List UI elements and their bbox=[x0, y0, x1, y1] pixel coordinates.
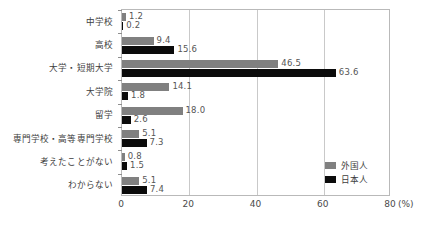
x-axis-tick-label: 40 bbox=[250, 199, 261, 209]
category-label: 専門学校・高等専門学校 bbox=[13, 126, 113, 149]
bar-row: 46.563.6 bbox=[122, 57, 389, 80]
bar bbox=[122, 46, 174, 54]
legend-label: 日本人 bbox=[341, 173, 368, 185]
x-axis-tick-label: 80 bbox=[384, 199, 395, 209]
category-label: 考えたことがない bbox=[40, 149, 113, 172]
bar bbox=[122, 107, 183, 115]
bar bbox=[122, 69, 336, 77]
bar bbox=[122, 186, 147, 194]
category-label: 高校 bbox=[95, 32, 113, 55]
bar-row: 1.20.2 bbox=[122, 10, 389, 33]
bar-value-label: 14.1 bbox=[172, 81, 192, 92]
bar-value-label: 7.4 bbox=[150, 184, 164, 195]
y-axis-tick bbox=[118, 174, 122, 175]
bar-value-label: 9.4 bbox=[157, 35, 171, 46]
bar bbox=[122, 139, 147, 147]
bar-row: 5.17.3 bbox=[122, 127, 389, 150]
y-axis-tick bbox=[118, 33, 122, 34]
bar-value-label: 7.3 bbox=[150, 137, 164, 148]
category-label: わからない bbox=[68, 173, 114, 196]
y-axis-tick bbox=[118, 127, 122, 128]
bar bbox=[122, 37, 154, 45]
category-label: 中学校 bbox=[86, 9, 113, 32]
chart-legend: 外国人日本人 bbox=[325, 159, 368, 187]
x-axis-tick-label: 20 bbox=[183, 199, 194, 209]
category-label: 留学 bbox=[95, 103, 113, 126]
category-label: 大学・短期大学 bbox=[49, 56, 113, 79]
bar bbox=[122, 60, 278, 68]
bar-value-label: 1.8 bbox=[131, 90, 145, 101]
y-axis-tick bbox=[118, 10, 122, 11]
y-axis-tick bbox=[118, 150, 122, 151]
bar-value-label: 0.2 bbox=[126, 20, 140, 31]
y-axis-tick bbox=[118, 104, 122, 105]
legend-swatch-icon bbox=[325, 176, 336, 183]
bar bbox=[122, 83, 169, 91]
bar-value-label: 63.6 bbox=[339, 67, 359, 78]
bar-row: 14.11.8 bbox=[122, 80, 389, 103]
x-axis-labels: 020406080 bbox=[121, 197, 390, 215]
bar bbox=[122, 22, 123, 30]
bar-value-label: 2.6 bbox=[134, 114, 148, 125]
bar-value-label: 1.5 bbox=[130, 160, 144, 171]
bar-value-label: 18.0 bbox=[186, 105, 206, 116]
legend-swatch-icon bbox=[325, 162, 336, 169]
bar-value-label: 15.6 bbox=[177, 44, 197, 55]
bar bbox=[122, 177, 139, 185]
bar bbox=[122, 130, 139, 138]
bar-row: 9.415.6 bbox=[122, 33, 389, 56]
x-axis-tick-label: 60 bbox=[317, 199, 328, 209]
y-axis-tick bbox=[118, 80, 122, 81]
legend-item: 外国人 bbox=[325, 159, 368, 171]
x-axis-tick-label: 0 bbox=[118, 199, 124, 209]
bar bbox=[122, 162, 127, 170]
bar bbox=[122, 92, 128, 100]
x-axis-unit-label: (%) bbox=[398, 199, 414, 209]
y-axis-tick bbox=[118, 57, 122, 58]
bar-value-label: 46.5 bbox=[281, 58, 301, 69]
bar-chart: 中学校高校大学・短期大学大学院留学専門学校・高等専門学校考えたことがないわからな… bbox=[0, 0, 431, 232]
legend-item: 日本人 bbox=[325, 173, 368, 185]
category-axis-labels: 中学校高校大学・短期大学大学院留学専門学校・高等専門学校考えたことがないわからな… bbox=[0, 9, 117, 196]
category-label: 大学院 bbox=[86, 79, 113, 102]
bar bbox=[122, 153, 125, 161]
bar bbox=[122, 116, 131, 124]
legend-label: 外国人 bbox=[341, 159, 368, 171]
bar-row: 18.02.6 bbox=[122, 104, 389, 127]
